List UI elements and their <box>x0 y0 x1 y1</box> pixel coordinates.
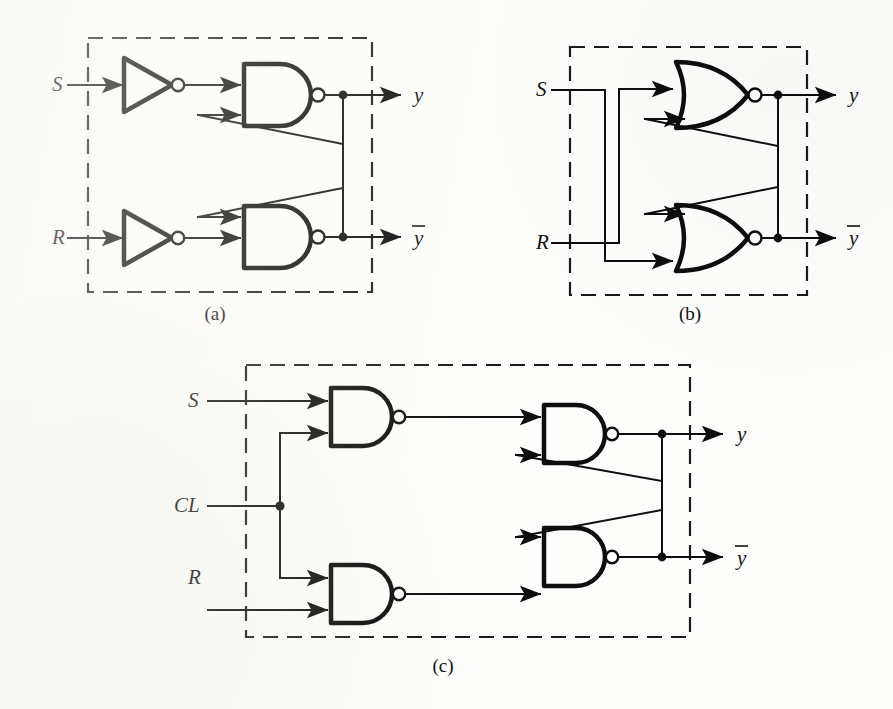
panel-b-nor-bottom-bubble <box>749 232 762 245</box>
panel-a-inverter-top <box>124 58 184 112</box>
panel-c-input-label-r: R <box>187 565 201 589</box>
panel-a-caption: (a) <box>204 303 225 325</box>
panel-c-nand-input-bottom <box>331 565 405 623</box>
panel-c: S CL R <box>174 365 748 677</box>
panel-c-nand-latch-top-bubble <box>606 428 618 440</box>
panel-b-output-label-ybar: y <box>847 226 860 250</box>
latch-circuits-figure: S y <box>0 0 893 709</box>
panel-a-nand-top-bubble <box>312 89 325 102</box>
panel-c-wire-cl-branch-down <box>280 506 327 578</box>
panel-c-boundary <box>246 365 690 637</box>
panel-c-crosswire-y-to-bottom <box>516 434 662 537</box>
panel-a-nand-top <box>244 64 325 126</box>
panel-c-nand-input-top-bubble <box>393 411 405 423</box>
panel-c-nand-latch-top <box>544 405 618 463</box>
panel-a-inverter-top-bubble <box>172 79 184 91</box>
panel-a-inverter-bottom-bubble <box>172 232 184 244</box>
panel-b-output-label-y: y <box>847 83 859 107</box>
panel-c-nand-latch-bottom <box>544 528 618 586</box>
svg-text:y: y <box>412 83 424 107</box>
panel-c-nand-input-bottom-bubble <box>393 588 405 600</box>
panel-b-wire-s-route-down <box>605 90 672 261</box>
panel-a-output-label-y: y <box>412 83 424 107</box>
panel-c-input-label-s: S <box>188 388 199 412</box>
panel-c-output-label-ybar: y <box>735 546 748 570</box>
figure-canvas: S y <box>0 0 893 709</box>
svg-text:y: y <box>735 546 747 570</box>
panel-b-input-label-r: R <box>535 230 549 254</box>
panel-b-input-label-s: S <box>536 77 547 101</box>
panel-b-nor-top <box>676 62 762 128</box>
svg-text:y: y <box>847 226 859 250</box>
panel-c-nand-latch-bottom-bubble <box>606 551 618 563</box>
panel-b-wire-r-route-up <box>619 89 672 243</box>
panel-a-input-label-s: S <box>52 72 63 96</box>
svg-text:y: y <box>735 422 747 446</box>
panel-a-input-label-r: R <box>51 225 65 249</box>
panel-b: S R y <box>535 47 860 325</box>
panel-a-inverter-bottom <box>124 211 184 265</box>
panel-c-output-label-y: y <box>735 422 747 446</box>
panel-b-crosswire-y-to-bottom <box>645 95 778 214</box>
panel-a-nand-bottom <box>244 206 325 268</box>
panel-a-nand-bottom-bubble <box>312 231 325 244</box>
panel-b-nor-top-bubble <box>749 89 762 102</box>
panel-b-crosswire-ybar-to-top <box>645 119 778 238</box>
svg-text:y: y <box>847 83 859 107</box>
svg-text:y: y <box>412 226 424 250</box>
panel-c-caption: (c) <box>432 655 453 677</box>
panel-c-wire-cl-branch-up <box>280 433 327 506</box>
panel-a: S y <box>51 38 425 325</box>
panel-a-crosswire-y-to-bottom <box>198 95 343 217</box>
panel-c-nand-input-top <box>331 388 405 446</box>
panel-c-crosswire-ybar-to-top <box>516 455 662 557</box>
panel-c-input-label-cl: CL <box>174 493 200 517</box>
panel-b-caption: (b) <box>679 303 701 325</box>
panel-a-boundary <box>88 38 372 292</box>
panel-a-output-label-ybar: y <box>412 226 425 250</box>
panel-a-crosswire-ybar-to-top <box>198 115 343 237</box>
panel-b-nor-bottom <box>676 205 762 271</box>
